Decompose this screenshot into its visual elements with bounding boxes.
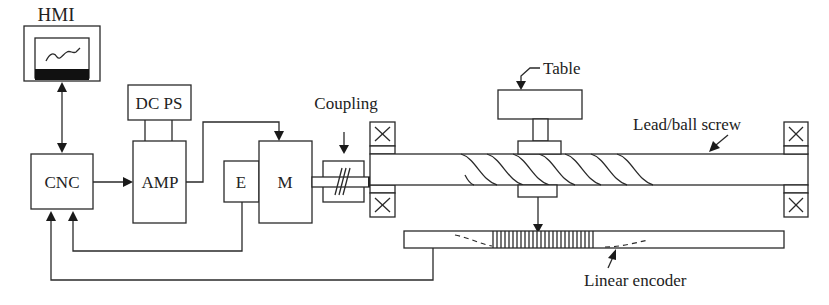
left-bearing-top (370, 122, 395, 154)
arrow-down-icon (516, 81, 526, 90)
amp-label: AMP (142, 173, 179, 192)
screw-pointer (716, 135, 728, 145)
cnc-label: CNC (45, 173, 80, 192)
feed-drive-diagram: HMI CNC DC PS AMP E M Coupling (0, 0, 829, 305)
table-post (533, 119, 548, 141)
linear-encoder-scale (404, 231, 784, 248)
arrow-down-icon (339, 145, 349, 154)
arrow-up-icon (46, 211, 56, 221)
right-bearing-bottom (784, 185, 808, 217)
screw-label: Lead/ball screw (633, 115, 742, 134)
encoder-label: E (236, 173, 246, 192)
hmi-block: HMI (24, 4, 100, 81)
arrow-up-icon (68, 211, 78, 221)
left-bearing-bottom (370, 185, 395, 217)
table-pointer (521, 68, 540, 82)
motor-label: M (277, 173, 292, 192)
table-box (498, 90, 582, 119)
table-label: Table (543, 59, 581, 78)
dcps-label: DC PS (136, 94, 183, 113)
ball-nut-bottom (518, 185, 557, 197)
hmi-label: HMI (38, 4, 75, 25)
linear-encoder-label: Linear encoder (584, 271, 687, 290)
arrow-up-icon (57, 82, 67, 92)
arrow-up-icon (608, 249, 616, 260)
arrow-right-icon (123, 177, 133, 187)
right-bearing-top (784, 122, 808, 154)
hmi-keypad (35, 69, 89, 80)
ball-nut-top (518, 141, 561, 154)
arrow-down-icon (274, 131, 284, 141)
lead-screw (370, 154, 808, 185)
arrow-down-icon (57, 143, 67, 153)
coupling-label: Coupling (314, 94, 378, 113)
